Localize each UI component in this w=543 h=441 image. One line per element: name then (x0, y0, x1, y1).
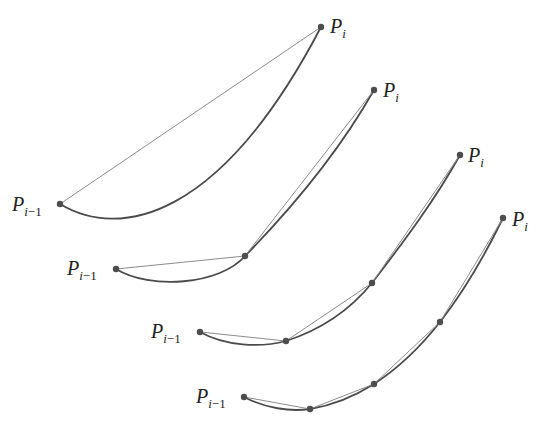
chord-polyline-1 (60, 27, 321, 204)
intermediate-point (371, 381, 377, 387)
point-p-i (318, 24, 324, 30)
intermediate-point (369, 280, 375, 286)
curve-3 (200, 155, 460, 345)
panel-4-segments: Pi−1 Pi (195, 208, 528, 412)
label-p-i: Pi (511, 208, 528, 234)
intermediate-point (242, 253, 248, 259)
chord-polyline-2 (116, 90, 374, 269)
curve-approximation-diagram: Pi−1 Pi Pi−1 Pi Pi−1 Pi (0, 0, 543, 441)
curve-1 (60, 27, 321, 219)
panel-1-segments: Pi−1 Pi (11, 15, 346, 219)
point-p-i (457, 152, 463, 158)
point-p-i (371, 87, 377, 93)
intermediate-point (283, 338, 289, 344)
intermediate-point (437, 319, 443, 325)
point-p-i (500, 215, 506, 221)
label-p-i-minus-1: Pi−1 (11, 193, 42, 219)
point-p-i-minus-1 (197, 329, 203, 335)
label-p-i: Pi (329, 15, 346, 41)
intermediate-point (307, 406, 313, 412)
panel-2-segments: Pi−1 Pi (66, 79, 399, 283)
label-p-i-minus-1: Pi−1 (150, 320, 181, 346)
point-p-i-minus-1 (113, 266, 119, 272)
label-p-i-minus-1: Pi−1 (66, 257, 97, 283)
chord-polyline-4 (244, 218, 503, 409)
point-p-i-minus-1 (57, 201, 63, 207)
chord-polyline-3 (200, 155, 460, 341)
label-p-i: Pi (382, 79, 399, 105)
label-p-i-minus-1: Pi−1 (195, 385, 226, 411)
point-p-i-minus-1 (241, 394, 247, 400)
label-p-i: Pi (467, 144, 484, 170)
